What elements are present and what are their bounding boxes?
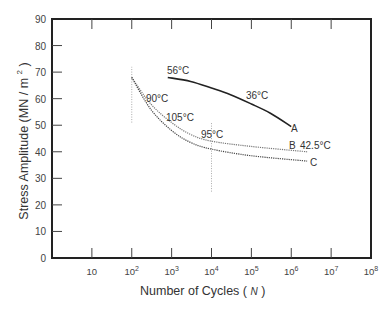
series-curve-b xyxy=(132,77,307,151)
y-tick-label: 30 xyxy=(35,173,47,184)
x-axis-ticks: 10102103104105106107108 xyxy=(87,19,379,277)
x-tick-label: 103 xyxy=(164,265,179,277)
y-tick-label: 0 xyxy=(40,253,46,264)
x-tick-label: 105 xyxy=(244,265,259,277)
data-series xyxy=(132,77,307,161)
annotation-36c: 36°C xyxy=(246,90,268,101)
y-tick-label: 80 xyxy=(35,41,47,52)
y-axis-label: Stress Amplitude (MN / m 2 ) xyxy=(15,62,30,219)
x-tick-label: 107 xyxy=(324,265,339,277)
x-tick-label: 102 xyxy=(125,265,140,277)
x-axis-label: Number of Cycles ( N ) xyxy=(140,284,265,298)
y-tick-label: 20 xyxy=(35,200,47,211)
curve-label-c: C xyxy=(310,157,317,168)
x-tick-label: 10 xyxy=(87,266,98,277)
curve-label-b: B xyxy=(289,140,296,151)
annotation-95c: 95°C xyxy=(201,129,223,140)
y-tick-label: 10 xyxy=(35,226,47,237)
y-tick-label: 40 xyxy=(35,147,47,158)
sn-fatigue-chart: 0102030405060708090 10102103104105106107… xyxy=(0,0,389,310)
x-tick-label: 104 xyxy=(204,265,219,277)
y-tick-label: 60 xyxy=(35,94,47,105)
y-axis-ticks: 0102030405060708090 xyxy=(35,14,62,264)
y-tick-label: 90 xyxy=(35,14,47,25)
y-tick-label: 50 xyxy=(35,120,47,131)
annotation-90c: 90°C xyxy=(146,93,168,104)
reference-lines xyxy=(132,67,212,192)
annotation-105c: 105°C xyxy=(166,112,194,123)
y-tick-label: 70 xyxy=(35,67,47,78)
annotation-56c: 56°C xyxy=(167,65,189,76)
x-tick-label: 108 xyxy=(364,265,379,277)
curve-label-a: A xyxy=(291,123,298,134)
annotation-42-5c: 42.5°C xyxy=(300,140,331,151)
x-tick-label: 106 xyxy=(284,265,299,277)
